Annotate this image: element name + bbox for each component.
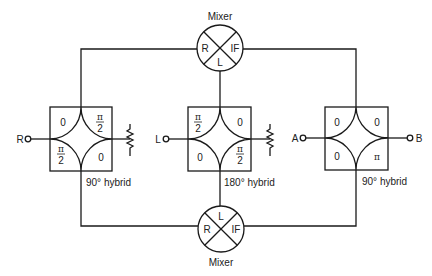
svg-text:π: π	[58, 144, 64, 154]
port-label-b: B	[416, 133, 423, 144]
wire-left-hybrid-to-top-mixer	[81, 49, 197, 107]
port-label-l: L	[155, 134, 161, 145]
wire-top-mixer-to-right-hybrid	[243, 49, 356, 107]
bottom-mixer-port-if: IF	[232, 224, 241, 235]
phase-tr: 0	[237, 117, 243, 128]
svg-text:π: π	[195, 112, 201, 122]
svg-text:2: 2	[97, 123, 103, 134]
bottom-mixer: L R IF Mixer	[198, 206, 244, 268]
middle-hybrid-caption: 180° hybrid	[224, 177, 275, 188]
port-label-a: A	[292, 133, 299, 144]
top-mixer-port-r: R	[201, 43, 208, 54]
left-hybrid-90: R 0 π 2 π 2 0 90° hybrid	[16, 107, 133, 188]
diagram-canvas: Mixer R IF L L R IF Mixer R 0 π 2	[0, 0, 432, 276]
right-hybrid-90: A B 0 0 0 π 90° hybrid	[292, 107, 423, 187]
top-mixer: Mixer R IF L	[197, 11, 243, 71]
left-hybrid-caption: 90° hybrid	[86, 177, 131, 188]
resistor-icon	[267, 124, 273, 156]
port-terminal-icon	[25, 136, 31, 142]
phase-bl: 0	[197, 152, 203, 163]
phase-tl: 0	[334, 117, 340, 128]
phase-tl: 0	[60, 117, 66, 128]
top-mixer-title: Mixer	[208, 11, 233, 22]
bottom-mixer-title: Mixer	[209, 257, 234, 268]
phase-tr: 0	[374, 117, 380, 128]
svg-text:2: 2	[58, 155, 64, 166]
top-mixer-port-l: L	[217, 57, 223, 68]
middle-hybrid-180: L π 2 0 0 π 2 180° hybrid	[155, 107, 274, 188]
port-terminal-icon	[407, 135, 413, 141]
port-label-r: R	[16, 134, 23, 145]
svg-text:2: 2	[195, 123, 201, 134]
bottom-mixer-port-r: R	[203, 224, 210, 235]
svg-text:π: π	[97, 112, 103, 122]
phase-br: 0	[98, 152, 104, 163]
port-terminal-icon	[163, 136, 169, 142]
right-hybrid-caption: 90° hybrid	[362, 176, 407, 187]
phase-tr: π 2	[96, 112, 104, 134]
port-terminal-icon	[300, 135, 306, 141]
svg-text:π: π	[237, 144, 243, 154]
phase-br: π 2	[236, 144, 244, 166]
phase-bl: π 2	[57, 144, 65, 166]
phase-bl: 0	[334, 151, 340, 162]
bottom-mixer-port-l: L	[218, 211, 224, 222]
svg-text:2: 2	[237, 155, 243, 166]
top-mixer-port-if: IF	[231, 43, 240, 54]
resistor-icon	[127, 124, 133, 156]
phase-br: π	[374, 152, 380, 162]
phase-tl: π 2	[194, 112, 202, 134]
